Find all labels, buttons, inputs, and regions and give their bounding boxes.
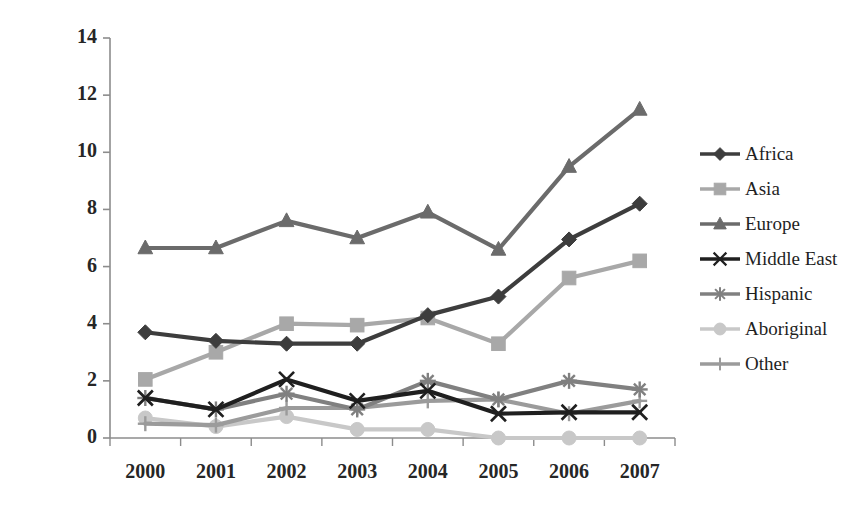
- marker-diamond: [632, 196, 647, 211]
- marker-asterisk: [349, 401, 365, 417]
- legend-item-asia[interactable]: Asia: [698, 171, 848, 206]
- legend-item-africa[interactable]: Africa: [698, 136, 848, 171]
- line-chart: 02468101214 2000200120022003200420052006…: [0, 0, 849, 511]
- x-tick-label: 2007: [600, 460, 680, 483]
- marker-diamond: [279, 336, 294, 351]
- legend-marker-plus-icon: [698, 353, 742, 375]
- legend-marker-x-cross-icon: [698, 248, 742, 270]
- marker-circle: [562, 431, 576, 445]
- legend-label: Europe: [742, 213, 800, 235]
- series-asia: [139, 254, 647, 386]
- marker-asterisk: [279, 386, 295, 402]
- marker-circle: [350, 422, 364, 436]
- marker-square: [562, 271, 576, 285]
- x-tick-label: 2003: [317, 460, 397, 483]
- marker-circle: [633, 431, 647, 445]
- legend-label: Hispanic: [742, 283, 813, 305]
- marker-triangle: [279, 213, 294, 227]
- marker-square: [139, 373, 153, 387]
- marker-diamond: [138, 325, 153, 340]
- y-tick-label: 4: [57, 311, 97, 334]
- legend-label: Africa: [742, 143, 794, 165]
- legend-label: Asia: [742, 178, 780, 200]
- marker-asterisk: [713, 287, 727, 301]
- x-tick-label: 2006: [529, 460, 609, 483]
- legend-item-europe[interactable]: Europe: [698, 206, 848, 241]
- marker-asterisk: [561, 373, 577, 389]
- legend-marker-diamond-icon: [698, 143, 742, 165]
- chart-legend: AfricaAsiaEuropeMiddle EastHispanicAbori…: [698, 136, 848, 381]
- series-europe: [138, 101, 647, 255]
- marker-circle: [421, 422, 435, 436]
- marker-diamond: [714, 147, 727, 160]
- x-tick-label: 2005: [458, 460, 538, 483]
- marker-diamond: [350, 336, 365, 351]
- marker-square: [350, 318, 364, 332]
- series-line: [145, 109, 639, 249]
- legend-label: Other: [742, 353, 788, 375]
- legend-marker-triangle-icon: [698, 213, 742, 235]
- marker-square: [714, 183, 726, 195]
- marker-asterisk: [632, 381, 648, 397]
- marker-asterisk: [490, 391, 506, 407]
- marker-plus: [714, 357, 727, 370]
- marker-triangle: [632, 101, 647, 115]
- y-tick-label: 8: [57, 196, 97, 219]
- legend-item-middle-east[interactable]: Middle East: [698, 241, 848, 276]
- y-tick-label: 12: [57, 82, 97, 105]
- legend-item-hispanic[interactable]: Hispanic: [698, 276, 848, 311]
- legend-label: Middle East: [742, 248, 837, 270]
- x-tick-label: 2000: [105, 460, 185, 483]
- legend-label: Aboriginal: [742, 318, 827, 340]
- y-tick-label: 6: [57, 254, 97, 277]
- legend-item-aboriginal[interactable]: Aboriginal: [698, 311, 848, 346]
- marker-triangle: [420, 204, 435, 218]
- y-tick-label: 10: [57, 139, 97, 162]
- x-tick-label: 2004: [388, 460, 468, 483]
- marker-square: [280, 317, 294, 331]
- x-tick-label: 2001: [176, 460, 256, 483]
- marker-square: [633, 254, 647, 268]
- y-tick-label: 2: [57, 368, 97, 391]
- y-tick-label: 0: [57, 425, 97, 448]
- legend-marker-asterisk-icon: [698, 283, 742, 305]
- marker-square: [492, 337, 506, 351]
- y-tick-label: 14: [57, 25, 97, 48]
- legend-marker-square-icon: [698, 178, 742, 200]
- series-lines: [137, 101, 647, 445]
- marker-circle: [714, 323, 726, 335]
- marker-circle: [491, 431, 505, 445]
- legend-item-other[interactable]: Other: [698, 346, 848, 381]
- legend-marker-circle-icon: [698, 318, 742, 340]
- x-tick-label: 2002: [247, 460, 327, 483]
